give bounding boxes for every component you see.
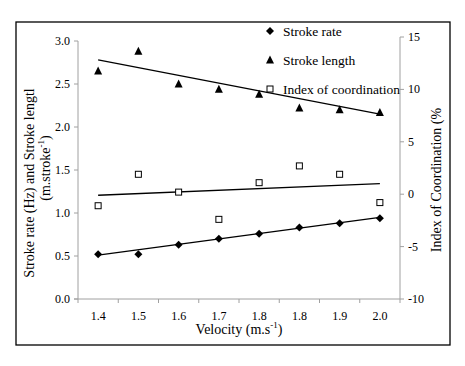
x-axis: 1.41.51.61.71.81.81.92.0 [74, 299, 400, 323]
right-axis-tick-label: -5 [408, 240, 418, 254]
left-y-axis-title-line2: (m.stroke-1) [36, 135, 54, 201]
index-of-coordination-point [135, 171, 141, 177]
x-axis-tick-label: 1.8 [252, 309, 267, 323]
left-y-axis: 0.00.51.01.52.02.53.0 [55, 34, 78, 306]
index-of-coordination-point [95, 203, 101, 209]
index-of-coordination-point [176, 189, 182, 195]
legend-label: Stroke rate [283, 24, 342, 39]
x-axis-tick-label: 2.0 [372, 309, 387, 323]
stroke-rate-point [134, 250, 142, 258]
x-axis-tick-label: 1.6 [171, 309, 186, 323]
stroke-rate-point [336, 219, 344, 227]
left-axis-tick-label: 0.5 [55, 249, 70, 263]
right-axis-tick-label: 0 [408, 187, 414, 201]
legend-marker-index-of-coordination [267, 86, 273, 92]
index-of-coordination-point [296, 163, 302, 169]
legend-label: Index of coordination [283, 82, 400, 97]
stroke-length-point [295, 104, 303, 112]
left-axis-tick-label: 2.5 [55, 77, 70, 91]
stroke-length-point [175, 80, 183, 88]
left-y-axis-title-line1: Stroke rate (Hz) and Stroke lengtl [22, 88, 38, 277]
stroke-length-point [215, 85, 223, 93]
chart-figure: 0.00.51.01.52.02.53.0 -10-5051015 1.41.5… [0, 0, 465, 366]
left-axis-tick-label: 1.5 [55, 163, 70, 177]
x-axis-title: Velocity (m.s-1) [196, 320, 283, 338]
right-axis-tick-label: -10 [408, 292, 424, 306]
right-y-axis-title: Index of Coordination (% [429, 108, 445, 253]
index-of-coordination-point [337, 171, 343, 177]
stroke-rate-point [255, 230, 263, 238]
left-axis-tick-label: 2.0 [55, 120, 70, 134]
stroke-rate-point [376, 214, 384, 222]
chart-frame [16, 22, 450, 345]
legend-marker-stroke-length [266, 56, 274, 64]
x-axis-tick-label: 1.4 [91, 309, 106, 323]
x-axis-tick-label: 1.8 [292, 309, 307, 323]
stroke-rate-point [94, 250, 102, 258]
index-of-coordination-point [256, 180, 262, 186]
x-axis-tick-label: 1.7 [211, 309, 226, 323]
stroke-length-point [134, 47, 142, 55]
stroke-length-point [376, 108, 384, 116]
legend: Stroke rateStroke lengthIndex of coordin… [266, 24, 400, 97]
stroke-rate-point [175, 241, 183, 249]
left-axis-tick-label: 3.0 [55, 34, 70, 48]
right-axis-tick-label: 10 [408, 82, 420, 96]
index-of-coordination-point [377, 200, 383, 206]
right-axis-tick-label: 15 [408, 30, 420, 44]
left-axis-tick-label: 0.0 [55, 292, 70, 306]
legend-marker-stroke-rate [266, 27, 274, 35]
index-of-coordination-trendline [98, 184, 380, 196]
legend-label: Stroke length [283, 53, 356, 68]
stroke-rate-point [215, 235, 223, 243]
data-points [94, 47, 384, 258]
index-of-coordination-point [216, 216, 222, 222]
stroke-length-point [94, 67, 102, 75]
x-axis-tick-label: 1.9 [332, 309, 347, 323]
left-axis-tick-label: 1.0 [55, 206, 70, 220]
right-y-axis: -10-5051015 [400, 30, 424, 306]
x-axis-tick-label: 1.5 [131, 309, 146, 323]
right-axis-tick-label: 5 [408, 135, 414, 149]
chart-canvas: 0.00.51.01.52.02.53.0 -10-5051015 1.41.5… [0, 0, 465, 366]
stroke-rate-point [295, 224, 303, 232]
